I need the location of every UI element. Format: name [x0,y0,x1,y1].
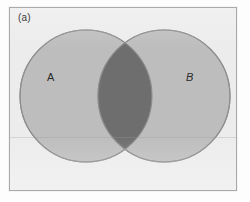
figure-panel: (a) [9,7,237,191]
figure-container: (a) A B [0,0,250,202]
set-b-label: B [186,72,193,83]
set-a-label: A [47,72,54,83]
panel-label: (a) [18,13,31,23]
venn-diagram [10,8,236,190]
